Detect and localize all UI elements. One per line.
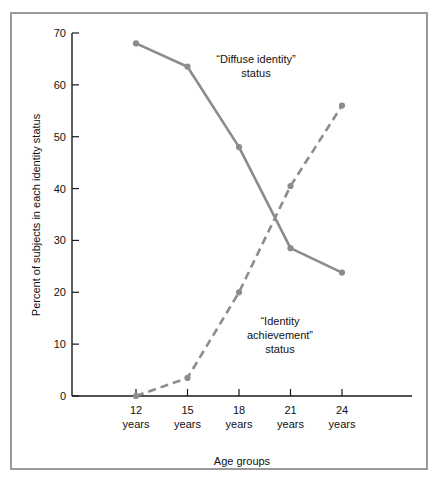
x-axis-tick-label: 15 bbox=[181, 404, 193, 416]
data-point-marker bbox=[184, 64, 190, 70]
x-axis-tick-label: years bbox=[226, 418, 253, 430]
y-axis-tick-label: 60 bbox=[54, 79, 66, 91]
diffuse-identity-label: status bbox=[241, 67, 271, 79]
y-axis-tick-label: 20 bbox=[54, 286, 66, 298]
y-axis-tick-label: 40 bbox=[54, 183, 66, 195]
x-axis-tick-labels: 12years15years18years21years24years bbox=[123, 404, 356, 430]
data-point-marker bbox=[184, 375, 190, 381]
x-axis-tick-label: 21 bbox=[284, 404, 296, 416]
data-point-marker bbox=[339, 270, 345, 276]
x-axis-tick-label: 12 bbox=[130, 404, 142, 416]
figure-container: 010203040506070 12years15years18years21y… bbox=[0, 0, 442, 485]
y-axis-tick-label: 0 bbox=[60, 390, 66, 402]
x-axis-tick-label: years bbox=[174, 418, 201, 430]
series-line-diffuse-identity bbox=[136, 43, 342, 272]
data-point-marker bbox=[339, 103, 345, 109]
x-axis-tick-label: years bbox=[123, 418, 150, 430]
identity-achievement-label: status bbox=[265, 343, 295, 355]
x-axis-ticks bbox=[136, 389, 342, 396]
identity-achievement-label: “Identity bbox=[260, 315, 300, 327]
data-series-group bbox=[133, 40, 345, 399]
data-point-marker bbox=[133, 40, 139, 46]
data-point-marker bbox=[133, 393, 139, 399]
y-axis-ticks bbox=[72, 33, 79, 396]
line-chart: 010203040506070 12years15years18years21y… bbox=[0, 0, 442, 485]
identity-achievement-label: achievement” bbox=[247, 329, 313, 341]
diffuse-identity-label: “Diffuse identity” bbox=[216, 53, 296, 65]
x-axis-tick-label: years bbox=[329, 418, 356, 430]
y-axis-title: Percent of subjects in each identity sta… bbox=[30, 113, 42, 316]
x-axis-tick-label: years bbox=[277, 418, 304, 430]
x-axis-tick-label: 24 bbox=[336, 404, 348, 416]
x-axis-tick-label: 18 bbox=[233, 404, 245, 416]
data-point-marker bbox=[287, 183, 293, 189]
y-axis-tick-labels: 010203040506070 bbox=[54, 27, 66, 402]
data-point-marker bbox=[287, 245, 293, 251]
y-axis-tick-label: 30 bbox=[54, 234, 66, 246]
y-axis-tick-label: 50 bbox=[54, 131, 66, 143]
y-axis-tick-label: 10 bbox=[54, 338, 66, 350]
data-point-marker bbox=[236, 144, 242, 150]
data-point-marker bbox=[236, 289, 242, 295]
y-axis-tick-label: 70 bbox=[54, 27, 66, 39]
chart-annotations: “Diffuse identity”status“Identityachieve… bbox=[216, 53, 313, 355]
x-axis-title: Age groups bbox=[214, 455, 271, 467]
